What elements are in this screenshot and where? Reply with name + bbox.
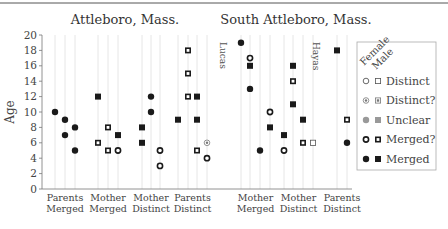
legend-label: Distinct?	[386, 94, 436, 107]
data-point	[72, 124, 78, 130]
annotation-label: Hayas	[311, 42, 321, 71]
data-point	[267, 109, 272, 114]
legend-female-marker	[363, 137, 368, 142]
data-point	[186, 71, 190, 75]
dot	[206, 142, 208, 144]
category-label-line2: Distinct	[174, 203, 212, 214]
data-point	[157, 148, 162, 153]
legend-female-marker	[363, 98, 369, 104]
y-tick-label: 12	[24, 90, 37, 102]
legend-male-marker	[375, 156, 381, 162]
category-label-line1: Parents	[174, 192, 211, 203]
data-point	[291, 79, 295, 83]
legend-male-marker	[375, 98, 380, 103]
data-point	[334, 47, 340, 53]
y-tick-label: 8	[30, 121, 37, 133]
data-point	[257, 147, 263, 153]
data-point	[186, 48, 190, 52]
data-point	[106, 125, 110, 129]
data-point	[139, 124, 145, 130]
y-tick-label: 2	[30, 167, 37, 179]
data-point	[345, 118, 349, 122]
y-tick-label: 18	[24, 44, 37, 56]
data-points	[52, 40, 350, 169]
panel-title: Attleboro, Mass.	[70, 12, 179, 27]
data-point	[300, 117, 306, 123]
legend-male-marker	[376, 137, 380, 141]
data-point	[310, 140, 315, 145]
legend: FemaleMaleDistinctDistinct?UnclearMerged…	[357, 34, 436, 170]
category-label-line1: Mother	[133, 192, 169, 203]
category-label-line2: Distinct	[132, 203, 170, 214]
dot	[377, 99, 379, 101]
legend-male-marker	[375, 117, 381, 123]
category-label-line2: Merged	[237, 203, 275, 214]
annotation-label: Lucas	[218, 42, 228, 69]
legend-label: Merged	[386, 153, 430, 166]
legend-male-marker	[375, 78, 380, 83]
column-grid	[55, 35, 347, 189]
data-point	[281, 132, 287, 138]
data-point	[204, 140, 210, 146]
data-point	[186, 94, 190, 98]
data-point	[62, 117, 68, 123]
category-label-line2: Merged	[89, 203, 127, 214]
data-point	[290, 63, 296, 69]
data-point	[301, 141, 305, 145]
data-point	[290, 101, 296, 107]
category-labels: ParentsMergedMotherMergedMotherDistinctP…	[46, 192, 361, 214]
data-point	[157, 163, 162, 168]
data-point	[139, 140, 145, 146]
data-point	[247, 86, 253, 92]
data-point	[96, 141, 100, 145]
legend-female-marker	[363, 78, 369, 84]
y-tick-label: 14	[24, 75, 38, 87]
data-point	[175, 117, 181, 123]
y-tick-label: 4	[30, 152, 37, 164]
y-tick-label: 0	[30, 183, 37, 195]
category-label-line2: Distinct	[280, 203, 318, 214]
data-point	[52, 109, 58, 115]
data-point	[95, 94, 101, 100]
data-point	[238, 40, 244, 46]
legend-female-marker	[363, 117, 369, 123]
category-label-line1: Parents	[324, 192, 361, 203]
data-point	[148, 109, 154, 115]
legend-female-marker	[363, 156, 369, 162]
legend-label: Unclear	[386, 114, 431, 127]
data-point	[247, 56, 252, 61]
data-point	[247, 63, 253, 69]
category-label-line2: Merged	[46, 203, 84, 214]
panel-title: South Attleboro, Mass.	[220, 12, 371, 27]
y-tick-label: 10	[24, 106, 37, 118]
category-label-line2: Distinct	[323, 203, 361, 214]
data-point	[194, 117, 200, 123]
data-point	[195, 148, 199, 152]
panel-titles: Attleboro, Mass.South Attleboro, Mass.	[70, 12, 372, 27]
category-label-line1: Mother	[238, 192, 274, 203]
category-label-line1: Mother	[90, 192, 126, 203]
data-point	[344, 140, 350, 146]
data-point	[194, 94, 200, 100]
data-point	[281, 148, 286, 153]
dot	[365, 99, 367, 101]
data-point	[106, 148, 110, 152]
data-point	[72, 147, 78, 153]
category-label-line1: Parents	[47, 192, 84, 203]
y-axis-label: Age	[3, 100, 17, 124]
y-tick-label: 16	[24, 59, 38, 71]
annotations: LucasHayas	[218, 42, 321, 71]
data-point	[148, 93, 154, 99]
data-point	[115, 148, 120, 153]
category-label-line1: Mother	[281, 192, 317, 203]
y-tick-label: 6	[30, 136, 37, 148]
data-point	[267, 124, 273, 130]
data-point	[115, 132, 121, 138]
data-point	[62, 132, 68, 138]
legend-label: Merged?	[386, 133, 436, 146]
chart: 02468101214161820Age Attleboro, Mass.Sou…	[0, 0, 448, 229]
data-point	[204, 156, 209, 161]
legend-label: Distinct	[386, 75, 430, 88]
y-tick-label: 20	[24, 29, 37, 41]
